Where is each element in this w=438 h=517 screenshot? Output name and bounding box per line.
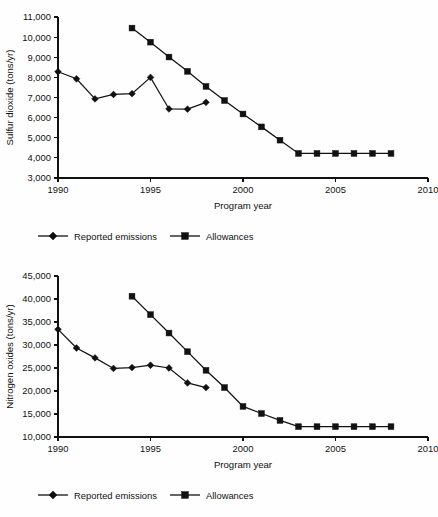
y-tick-label: 45,000 bbox=[22, 270, 51, 281]
data-point-diamond bbox=[184, 106, 191, 113]
data-point-square bbox=[296, 424, 302, 430]
data-point-square bbox=[333, 424, 339, 430]
x-ticks-so2: 19901995200020052010 bbox=[48, 178, 438, 195]
data-point-diamond bbox=[92, 354, 99, 361]
y-tick-label: 10,000 bbox=[22, 32, 51, 43]
series-reported-emissions bbox=[55, 68, 210, 112]
data-point-square bbox=[129, 293, 135, 299]
x-tick-label: 2005 bbox=[325, 184, 346, 195]
y-tick-label: 11,000 bbox=[23, 11, 51, 22]
y-axis-title: Nitrogen oxides (tons/yr) bbox=[4, 304, 15, 409]
data-point-diamond bbox=[110, 91, 117, 98]
data-point-diamond bbox=[129, 364, 136, 371]
data-point-square bbox=[296, 151, 302, 157]
chart-svg-nox: 10,00015,00020,00025,00030,00035,00040,0… bbox=[0, 259, 438, 517]
y-tick-label: 7,000 bbox=[28, 92, 51, 103]
y-axis-title-group: Sulfur dioxide (tons/yr) bbox=[4, 50, 15, 146]
legend-nox: Reported emissionsAllowances bbox=[38, 490, 254, 501]
data-point-diamond bbox=[203, 99, 210, 106]
x-tick-label: 1990 bbox=[48, 443, 69, 454]
y-tick-label: 15,000 bbox=[22, 408, 51, 419]
data-point-square bbox=[277, 418, 283, 424]
x-tick-label: 2000 bbox=[233, 184, 254, 195]
y-tick-label: 40,000 bbox=[22, 293, 51, 304]
x-tick-label: 2010 bbox=[418, 184, 438, 195]
data-point-square bbox=[148, 312, 154, 318]
y-tick-label: 20,000 bbox=[22, 385, 51, 396]
data-point-square bbox=[388, 424, 394, 430]
data-point-square bbox=[185, 68, 191, 74]
chart-nitrogen-oxides: 10,00015,00020,00025,00030,00035,00040,0… bbox=[0, 259, 438, 517]
y-tick-label: 3,000 bbox=[28, 172, 51, 183]
y-tick-label: 35,000 bbox=[22, 316, 51, 327]
series-allowances bbox=[129, 293, 394, 429]
series-allowances bbox=[129, 25, 394, 156]
chart-svg-so2: 3,0004,0005,0006,0007,0008,0009,00010,00… bbox=[0, 0, 438, 258]
axes-nox bbox=[58, 276, 428, 437]
chart-sulfur-dioxide: 3,0004,0005,0006,0007,0008,0009,00010,00… bbox=[0, 0, 438, 258]
legend-marker-diamond bbox=[49, 232, 57, 240]
x-axis-title: Program year bbox=[214, 200, 273, 211]
chart-page: 3,0004,0005,0006,0007,0008,0009,00010,00… bbox=[0, 0, 438, 517]
legend-label: Allowances bbox=[206, 231, 254, 242]
data-point-diamond bbox=[55, 68, 62, 75]
x-tick-label: 2010 bbox=[418, 443, 438, 454]
data-point-square bbox=[203, 84, 209, 90]
data-point-square bbox=[333, 151, 339, 157]
data-point-diamond bbox=[166, 106, 173, 113]
series-line bbox=[132, 296, 391, 426]
series-reported-emissions bbox=[55, 326, 210, 391]
x-ticks-nox: 19901995200020052010 bbox=[48, 437, 438, 454]
data-point-square bbox=[240, 404, 246, 410]
data-point-square bbox=[166, 54, 172, 60]
data-point-square bbox=[222, 385, 228, 391]
legend-marker-square bbox=[182, 233, 189, 240]
data-point-square bbox=[148, 39, 154, 45]
data-point-square bbox=[277, 137, 283, 143]
data-point-diamond bbox=[110, 365, 117, 372]
data-point-square bbox=[314, 424, 320, 430]
y-tick-label: 5,000 bbox=[28, 132, 51, 143]
data-point-square bbox=[370, 424, 376, 430]
data-point-square bbox=[351, 424, 357, 430]
y-tick-label: 9,000 bbox=[28, 52, 51, 63]
y-tick-label: 30,000 bbox=[22, 339, 51, 350]
data-point-square bbox=[185, 349, 191, 355]
y-tick-label: 8,000 bbox=[28, 72, 51, 83]
series-line bbox=[132, 28, 391, 153]
data-point-diamond bbox=[147, 362, 154, 369]
y-ticks-nox: 10,00015,00020,00025,00030,00035,00040,0… bbox=[22, 270, 58, 442]
y-tick-label: 10,000 bbox=[22, 431, 51, 442]
legend-label: Reported emissions bbox=[74, 231, 157, 242]
x-tick-label: 1995 bbox=[140, 443, 161, 454]
data-point-square bbox=[203, 367, 209, 373]
data-point-square bbox=[129, 25, 135, 31]
legend-so2: Reported emissionsAllowances bbox=[38, 231, 254, 242]
y-tick-label: 6,000 bbox=[28, 112, 51, 123]
x-axis-title: Program year bbox=[214, 459, 273, 470]
y-axis-title: Sulfur dioxide (tons/yr) bbox=[4, 50, 15, 146]
data-point-diamond bbox=[203, 384, 210, 391]
data-point-square bbox=[388, 151, 394, 157]
y-tick-label: 4,000 bbox=[28, 152, 51, 163]
y-tick-label: 25,000 bbox=[22, 362, 51, 373]
data-point-square bbox=[259, 411, 265, 417]
data-point-square bbox=[370, 151, 376, 157]
series-line bbox=[58, 329, 206, 387]
y-ticks-so2: 3,0004,0005,0006,0007,0008,0009,00010,00… bbox=[22, 11, 58, 183]
y-axis-title-group: Nitrogen oxides (tons/yr) bbox=[4, 304, 15, 409]
data-point-square bbox=[240, 111, 246, 117]
legend-marker-diamond bbox=[49, 491, 57, 499]
data-point-square bbox=[351, 151, 357, 157]
x-tick-label: 1990 bbox=[48, 184, 69, 195]
x-tick-label: 2000 bbox=[233, 443, 254, 454]
legend-label: Reported emissions bbox=[74, 490, 157, 501]
legend-marker-square bbox=[182, 492, 189, 499]
data-point-square bbox=[314, 151, 320, 157]
data-point-square bbox=[259, 124, 265, 130]
data-point-square bbox=[222, 98, 228, 104]
x-tick-label: 2005 bbox=[325, 443, 346, 454]
x-tick-label: 1995 bbox=[140, 184, 161, 195]
legend-label: Allowances bbox=[206, 490, 254, 501]
data-point-square bbox=[166, 330, 172, 336]
